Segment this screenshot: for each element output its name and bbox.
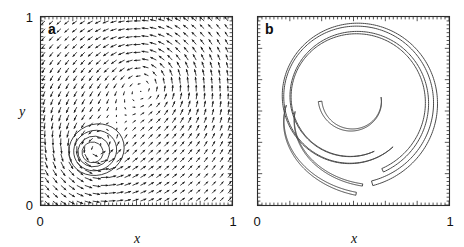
panel-a-xlabel: x [133,231,141,246]
panel-b-filament [282,23,437,195]
panel-a-ticks [41,17,232,205]
panel-a-contours [60,115,132,184]
filament-outer-arm [282,23,437,185]
panel-b-xlabel: x [350,231,358,246]
two-panel-figure: a 1 0 0 1 x y b 0 1 x [0,0,464,247]
panel-b-xtick-right: 1 [446,214,453,229]
panel-a-xtick-right: 1 [229,214,236,229]
contour-ring [60,115,132,184]
panel-b-ticks [258,17,449,205]
contour-ring [74,132,113,170]
panel-a-ytick-top: 1 [26,10,33,25]
panel-b-letter: b [265,21,274,37]
panel-a-vector-field [41,17,231,205]
panel-b-frame [258,17,450,206]
panel-a-letter: a [48,21,56,37]
panel-a-xtick-left: 0 [36,214,43,229]
filament-inner-hook [318,97,381,131]
panel-a-ylabel: y [17,104,26,119]
panel-b-xtick-left: 0 [253,214,260,229]
panel-a: a 1 0 0 1 x y [17,10,237,246]
panel-a-ytick-bottom: 0 [26,198,33,213]
panel-b: b 0 1 x [253,17,453,247]
figure-canvas: a 1 0 0 1 x y b 0 1 x [0,0,464,247]
filament-lower-tail-inner [294,112,362,187]
